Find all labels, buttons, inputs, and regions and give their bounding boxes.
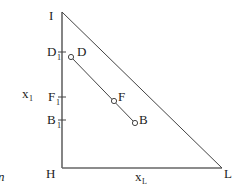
point-label-d: D bbox=[77, 44, 86, 59]
tick-label-d1: D bbox=[47, 44, 56, 59]
tick-label-f1-sub: 1 bbox=[56, 98, 60, 107]
vertex-label-i: I bbox=[49, 8, 53, 23]
point-label-f: F bbox=[118, 89, 125, 104]
tick-label-b1: B bbox=[47, 112, 56, 127]
axis-label-x1: x bbox=[22, 86, 29, 101]
tick-label-d1-sub: 1 bbox=[57, 53, 61, 62]
axis-label-xl-sub: L bbox=[142, 177, 147, 186]
triangle-diagram: I H L D 1 F 1 B 1 D F B x 1 x L n bbox=[0, 0, 245, 195]
axis-label-xl: x bbox=[135, 169, 142, 184]
vertex-label-h: H bbox=[46, 166, 55, 181]
point-label-b: B bbox=[139, 112, 148, 127]
point-b-marker bbox=[132, 120, 137, 125]
axis-label-x1-sub: 1 bbox=[29, 94, 33, 103]
tick-label-b1-sub: 1 bbox=[57, 121, 61, 130]
point-d-marker bbox=[68, 54, 73, 59]
point-f-marker bbox=[111, 98, 116, 103]
side-il bbox=[62, 12, 222, 168]
segment-db bbox=[71, 57, 135, 123]
tick-label-f1: F bbox=[48, 89, 55, 104]
margin-text: n bbox=[0, 169, 5, 184]
vertex-label-l: L bbox=[224, 166, 232, 181]
